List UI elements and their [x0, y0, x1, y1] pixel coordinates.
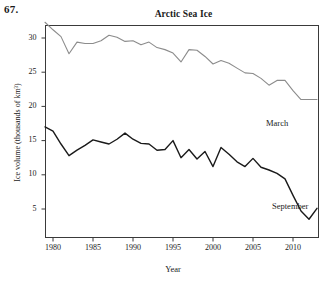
x-tick-label: 1980 [38, 243, 68, 252]
y-tick-label: 20 [15, 101, 37, 110]
x-tick-label: 2005 [238, 243, 268, 252]
x-tick-label: 1985 [78, 243, 108, 252]
y-axis-ticks [42, 38, 46, 209]
x-tick-label: 2010 [278, 243, 308, 252]
x-axis-ticks [53, 238, 293, 242]
y-tick-label: 5 [15, 204, 37, 213]
series-label-march: March [266, 118, 288, 128]
figure-container: 67. Arctic Sea Ice Ice volume (thousands… [0, 0, 331, 285]
x-tick-label: 1990 [118, 243, 148, 252]
x-tick-label: 1995 [158, 243, 188, 252]
y-tick-label: 25 [15, 67, 37, 76]
y-tick-label: 15 [15, 135, 37, 144]
x-tick-label: 2000 [198, 243, 228, 252]
y-tick-label: 10 [15, 169, 37, 178]
y-tick-label: 30 [15, 33, 37, 42]
series-label-september: September [272, 201, 308, 211]
march-series-line [45, 22, 317, 99]
